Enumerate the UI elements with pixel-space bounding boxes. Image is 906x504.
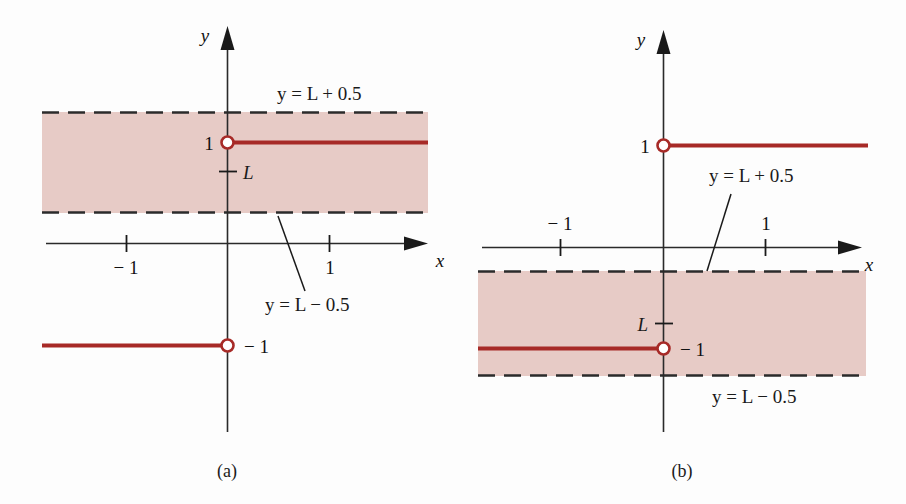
figure-container: y x − 1 1 1 − 1 L y = L + 0.5 y = L − 0.… xyxy=(0,0,906,504)
panel-a-x-tick-label-neg-one: − 1 xyxy=(114,257,139,278)
panel-b-lower-band-annotation: y = L − 0.5 xyxy=(712,386,797,407)
panel-a-caption: (a) xyxy=(217,461,237,482)
figure-canvas: y x − 1 1 1 − 1 L y = L + 0.5 y = L − 0.… xyxy=(0,0,906,504)
panel-a-open-endpoint-upper xyxy=(222,137,234,149)
panel-b-x-tick-label-pos-one: 1 xyxy=(761,213,771,234)
panel-a-x-axis-label: x xyxy=(435,250,445,271)
panel-a-y-tick-label-L: L xyxy=(242,162,254,183)
panel-b-upper-band-leader-line xyxy=(707,194,731,271)
panel-b-open-endpoint-lower xyxy=(658,343,670,355)
panel-b-y-axis-label: y xyxy=(635,29,646,50)
panel-b-open-endpoint-upper xyxy=(658,140,670,152)
panel-b-upper-band-annotation: y = L + 0.5 xyxy=(709,165,794,186)
panel-a-open-endpoint-lower xyxy=(222,340,234,352)
panel-a-x-tick-label-pos-one: 1 xyxy=(325,257,335,278)
panel-b-caption: (b) xyxy=(672,461,693,482)
panel-a-y-tick-label-neg-one: − 1 xyxy=(244,336,269,357)
panel-b-y-axis-arrowhead xyxy=(657,30,671,54)
panel-b-y-tick-label-one: 1 xyxy=(640,136,650,157)
panel-a: y x − 1 1 1 − 1 L y = L + 0.5 y = L − 0.… xyxy=(42,25,445,482)
panel-a-x-axis-arrowhead xyxy=(404,237,428,251)
panel-a-tolerance-band xyxy=(42,112,428,213)
panel-a-lower-band-annotation: y = L − 0.5 xyxy=(265,294,350,315)
panel-a-y-axis-label: y xyxy=(199,25,210,46)
panel-a-y-axis-arrowhead xyxy=(221,26,235,50)
panel-b-x-axis-label: x xyxy=(864,254,874,275)
panel-a-y-tick-label-one: 1 xyxy=(204,133,214,154)
panel-b-x-tick-label-neg-one: − 1 xyxy=(548,213,573,234)
panel-b: y x − 1 1 1 − 1 L y = L + 0.5 y = L − 0.… xyxy=(478,29,874,482)
panel-a-lower-band-leader-line xyxy=(278,216,305,291)
panel-a-upper-band-annotation: y = L + 0.5 xyxy=(277,83,362,104)
panel-b-x-axis-arrowhead xyxy=(838,241,862,255)
panel-b-y-tick-label-neg-one: − 1 xyxy=(680,339,705,360)
panel-b-y-tick-label-L: L xyxy=(636,314,648,335)
